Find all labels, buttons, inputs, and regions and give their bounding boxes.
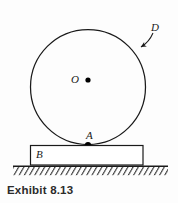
label-block-b: B: [36, 149, 43, 160]
label-contact-a: A: [86, 130, 93, 141]
exhibit-figure: O A D B Exhibit 8.13: [0, 0, 178, 203]
block-rectangle-icon: [31, 146, 144, 166]
leader-arrow-icon: [141, 33, 153, 47]
center-point-icon: [85, 77, 90, 82]
figure-caption: Exhibit 8.13: [7, 184, 73, 196]
hatched-ground-icon: [13, 167, 168, 175]
disk-outline: [31, 30, 146, 145]
label-center-o: O: [71, 74, 79, 85]
label-disk-d: D: [151, 22, 159, 33]
